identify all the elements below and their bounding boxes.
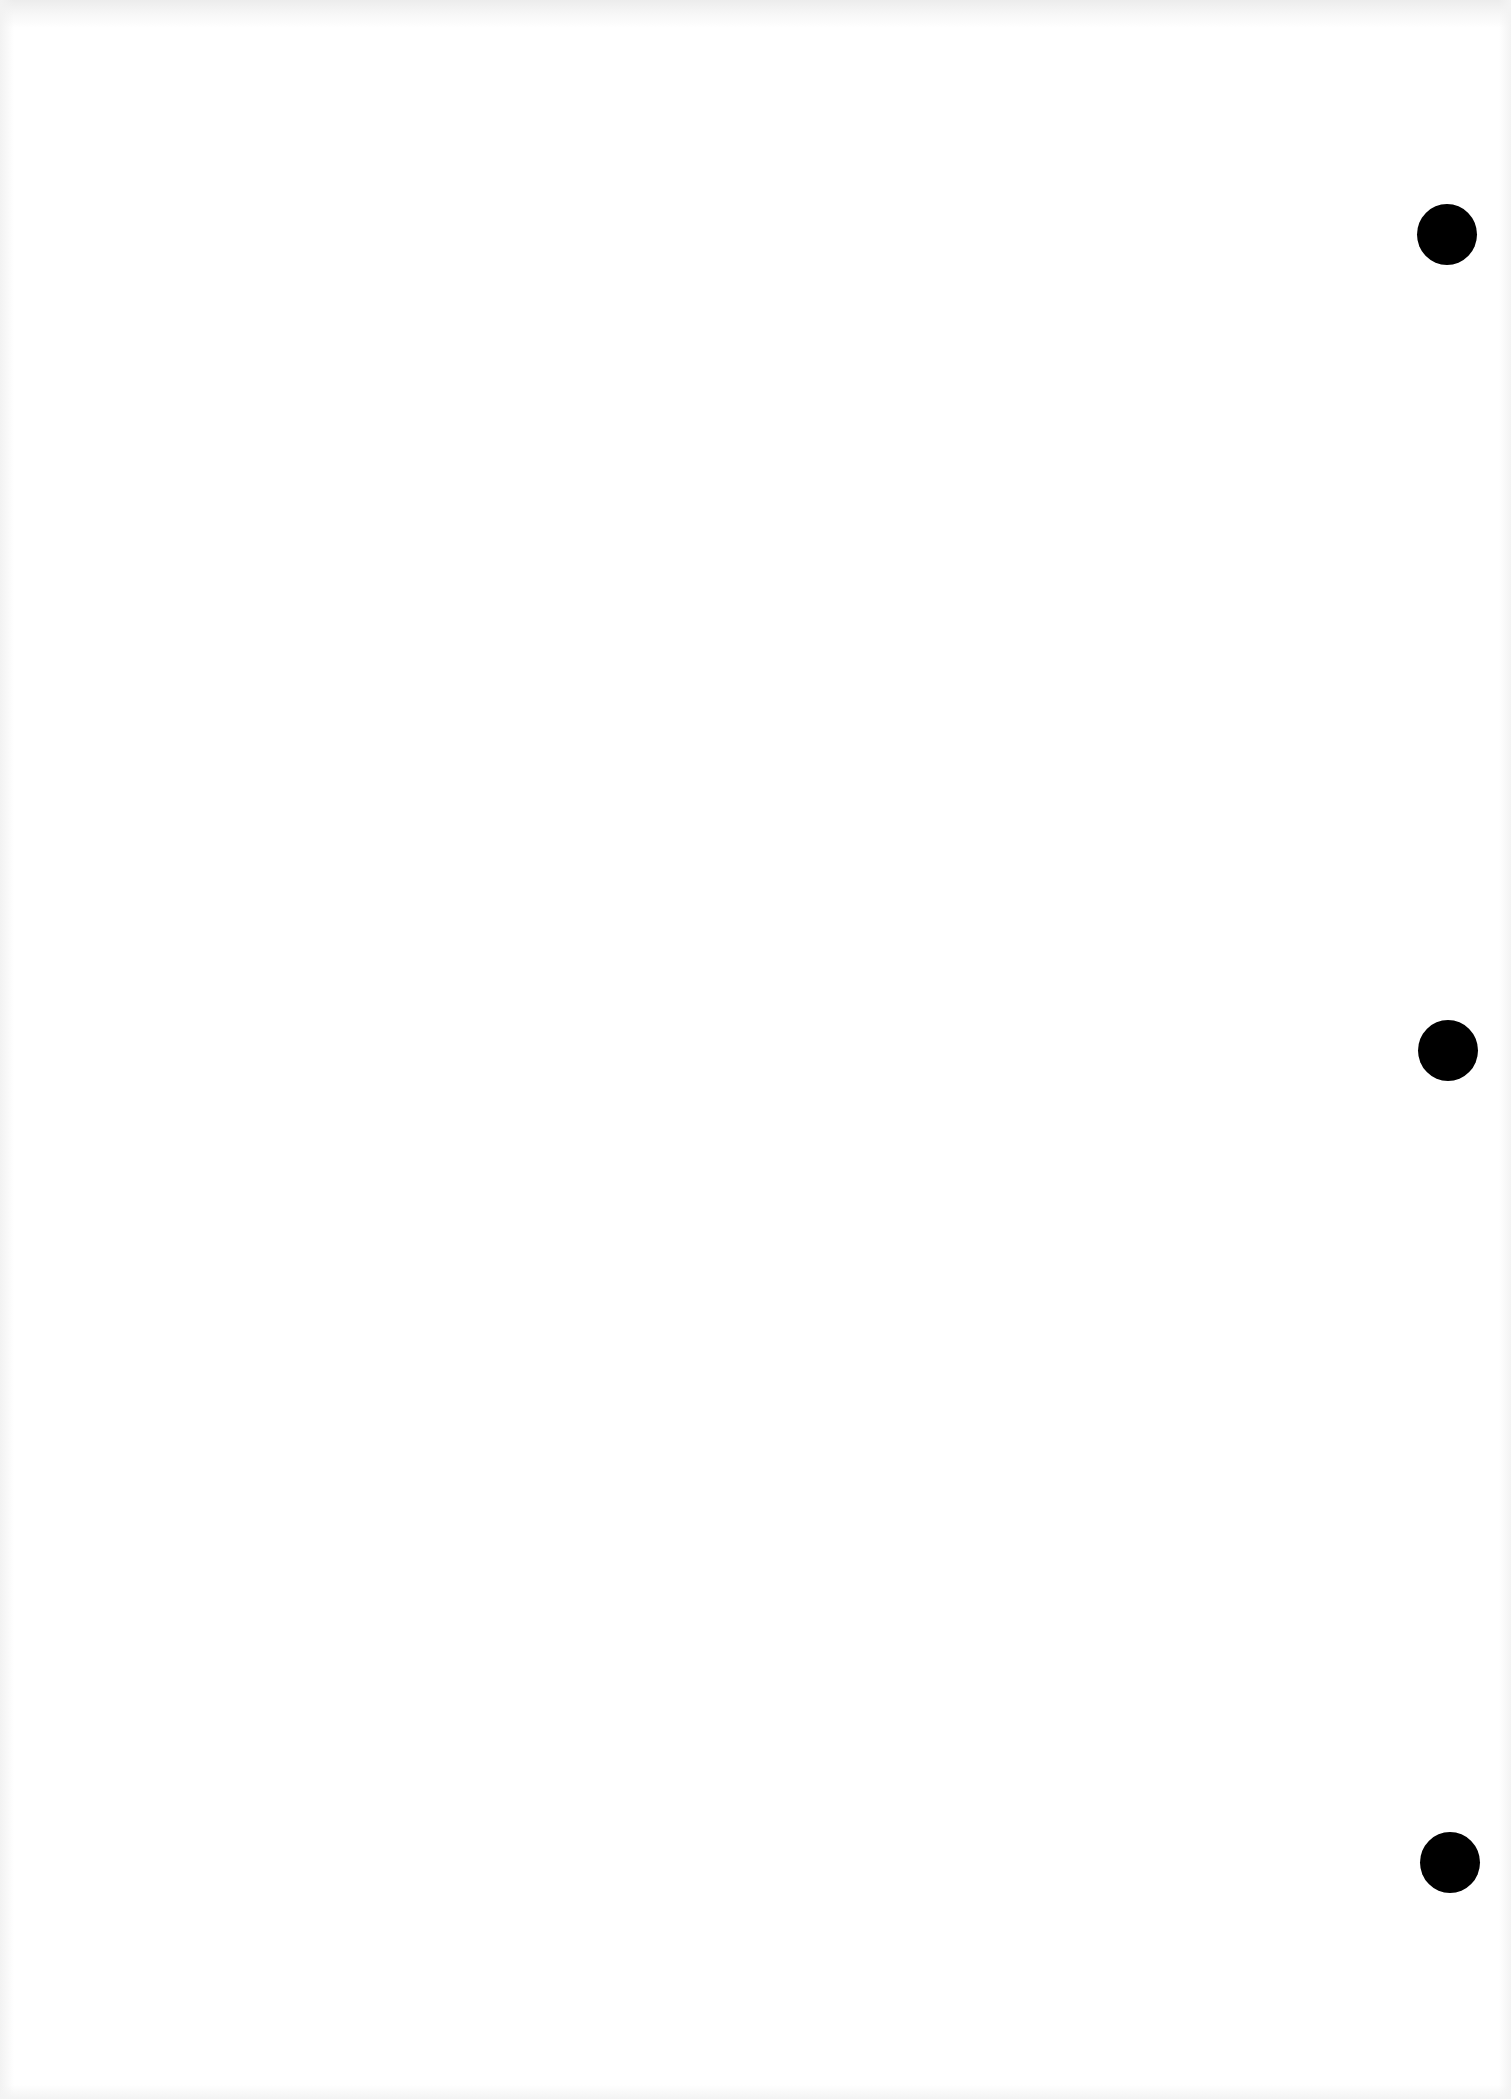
- punch-hole-top: [1417, 204, 1477, 265]
- punch-hole-middle: [1418, 1020, 1478, 1081]
- punch-hole-bottom: [1420, 1832, 1480, 1893]
- scan-shadow-top: [0, 0, 1511, 28]
- blank-document-page: [0, 0, 1511, 2099]
- scan-shadow-left: [0, 0, 14, 2099]
- scan-shadow-bottom: [0, 2085, 1511, 2099]
- scan-shadow-right: [1499, 0, 1511, 2099]
